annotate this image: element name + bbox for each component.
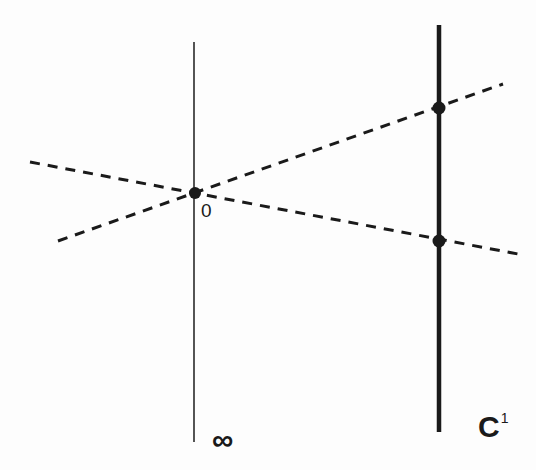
c1-label-base: C: [478, 410, 500, 443]
diagram-canvas: 0 ∞ C1: [0, 0, 536, 470]
c1-label-superscript: 1: [501, 410, 509, 426]
diagram-svg: [0, 0, 536, 470]
infinity-label: ∞: [212, 425, 233, 455]
lower-intersection-point: [433, 235, 446, 248]
c1-label: C1: [478, 403, 508, 442]
origin-point: [189, 187, 201, 199]
origin-label: 0: [201, 200, 212, 222]
upper-intersection-point: [433, 102, 446, 115]
